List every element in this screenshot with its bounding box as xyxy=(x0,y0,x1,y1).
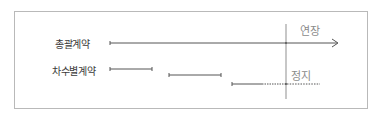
per-order-segment-3 xyxy=(232,82,320,86)
timeline-diagram xyxy=(0,0,381,118)
per-order-segment-2 xyxy=(169,73,221,77)
per-order-segment-1 xyxy=(110,67,152,71)
master-contract-timeline xyxy=(110,41,337,45)
